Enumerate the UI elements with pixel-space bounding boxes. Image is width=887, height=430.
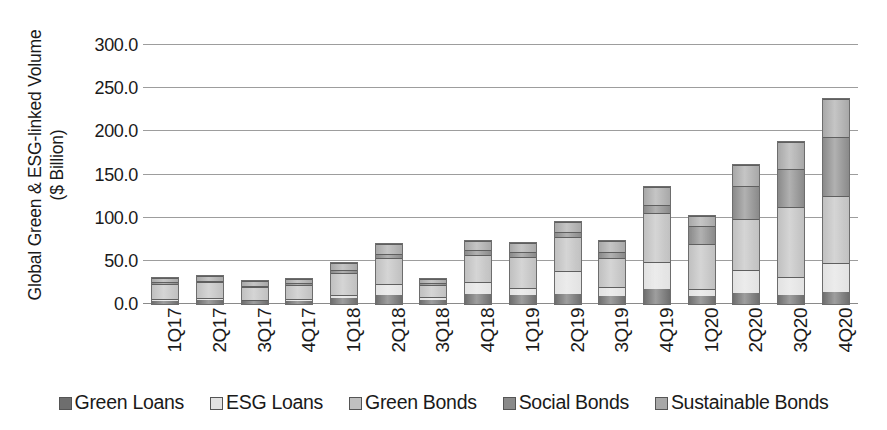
bar-segment[interactable] [510,243,536,252]
bar-stack[interactable] [510,243,536,304]
bar-segment[interactable] [599,287,625,296]
bar-segment[interactable] [376,284,402,294]
bar-segment[interactable] [644,187,670,204]
bar-group[interactable] [465,45,491,304]
bar-group[interactable] [778,45,804,304]
bar-segment[interactable] [778,277,804,294]
y-axis-title: Global Green & ESG-linked Volume ($ Bill… [0,0,92,330]
chart-legend: Green LoansESG LoansGreen BondsSocial Bo… [0,385,887,419]
bar-stack[interactable] [644,187,670,304]
bar-group[interactable] [286,45,312,304]
stacked-bar-chart: Global Green & ESG-linked Volume ($ Bill… [0,0,887,430]
bar-segment[interactable] [823,292,849,304]
bar-segment[interactable] [510,257,536,287]
bar-segment[interactable] [555,237,581,272]
legend-item[interactable]: Social Bonds [503,392,629,412]
bar-segment[interactable] [689,296,715,304]
bar-segment[interactable] [644,289,670,304]
legend-item[interactable]: Sustainable Bonds [655,392,829,412]
bar-segment[interactable] [733,219,759,271]
bar-stack[interactable] [286,279,312,304]
bar-segment[interactable] [733,165,759,186]
bar-segment[interactable] [733,186,759,219]
bar-segment[interactable] [465,282,491,293]
bar-segment[interactable] [644,262,670,290]
bar-segment[interactable] [823,99,849,137]
bar-segment[interactable] [420,300,446,304]
bar-segment[interactable] [376,258,402,284]
legend-item[interactable]: ESG Loans [210,392,323,412]
bar-segment[interactable] [331,263,357,270]
bar-segment[interactable] [778,295,804,304]
bar-group[interactable] [599,45,625,304]
bar-stack[interactable] [197,276,223,304]
bar-segment[interactable] [510,288,536,296]
bar-stack[interactable] [376,244,402,304]
bar-group[interactable] [242,45,268,304]
bar-segment[interactable] [823,263,849,291]
bar-segment[interactable] [733,270,759,292]
bar-segment[interactable] [331,298,357,304]
bar-segment[interactable] [510,295,536,304]
bar-stack[interactable] [242,281,268,304]
bar-stack[interactable] [599,241,625,304]
bar-group[interactable] [689,45,715,304]
bar-segment[interactable] [197,282,223,298]
bar-group[interactable] [197,45,223,304]
bar-segment[interactable] [152,301,178,304]
bar-stack[interactable] [778,142,804,304]
bar-stack[interactable] [689,216,715,304]
bar-segment[interactable] [555,271,581,293]
bar-group[interactable] [644,45,670,304]
bar-group[interactable] [420,45,446,304]
bar-segment[interactable] [823,137,849,196]
bar-stack[interactable] [331,263,357,304]
bar-stack[interactable] [420,279,446,304]
bar-segment[interactable] [465,294,491,304]
bar-segment[interactable] [778,169,804,207]
bar-stack[interactable] [733,165,759,304]
bar-segment[interactable] [242,287,268,300]
bar-stack[interactable] [465,241,491,304]
bar-segment[interactable] [286,301,312,304]
bar-stack[interactable] [555,222,581,304]
bar-segment[interactable] [599,296,625,304]
bar-segment[interactable] [286,285,312,299]
bar-stack[interactable] [152,278,178,304]
bar-segment[interactable] [242,301,268,304]
bar-segment[interactable] [689,289,715,296]
bar-segment[interactable] [465,255,491,283]
bar-segment[interactable] [152,284,178,299]
bar-segment[interactable] [331,273,357,295]
bar-group[interactable] [331,45,357,304]
bar-segment[interactable] [376,295,402,304]
legend-swatch-icon [655,397,668,410]
bar-segment[interactable] [778,142,804,170]
bar-segment[interactable] [778,207,804,277]
bar-group[interactable] [733,45,759,304]
y-tick-label: 100.0 [86,209,138,227]
bar-stack[interactable] [823,99,849,304]
bar-group[interactable] [510,45,536,304]
bar-segment[interactable] [644,205,670,213]
bar-segment[interactable] [689,216,715,226]
bar-segment[interactable] [733,293,759,304]
bar-segment[interactable] [644,213,670,262]
bar-group[interactable] [376,45,402,304]
bar-segment[interactable] [689,226,715,244]
bar-group[interactable] [823,45,849,304]
bar-segment[interactable] [823,196,849,263]
bar-segment[interactable] [197,300,223,304]
bar-segment[interactable] [599,241,625,252]
bar-segment[interactable] [465,241,491,250]
bar-segment[interactable] [555,294,581,304]
bar-group[interactable] [555,45,581,304]
bar-segment[interactable] [376,244,402,254]
bar-group[interactable] [152,45,178,304]
legend-item[interactable]: Green Bonds [349,392,477,412]
bar-segment[interactable] [599,258,625,286]
legend-item[interactable]: Green Loans [59,392,184,412]
bar-segment[interactable] [555,222,581,231]
bar-segment[interactable] [689,244,715,289]
bar-segment[interactable] [420,285,446,297]
